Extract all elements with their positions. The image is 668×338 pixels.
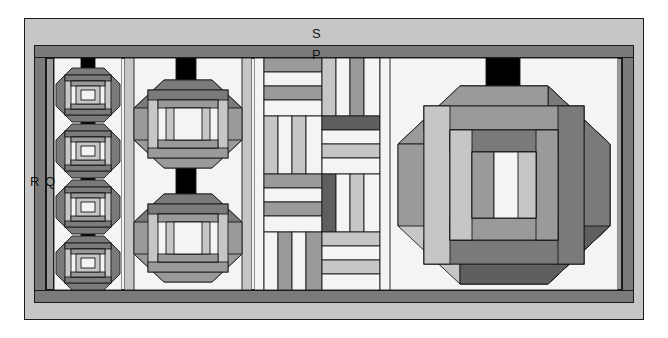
quilt-diagram-canvas: S P R Q <box>0 0 668 338</box>
label-p: P <box>312 48 321 61</box>
sash-strip-bottom <box>34 290 634 303</box>
large-octagon-column <box>390 58 618 290</box>
label-r: R <box>30 175 39 188</box>
sash-strip-top <box>34 45 634 58</box>
label-s: S <box>312 27 321 40</box>
sash-strip-right-outer <box>622 45 634 303</box>
medium-octagon-column <box>124 58 252 290</box>
label-q: Q <box>45 175 55 188</box>
small-octagon-column <box>54 58 122 290</box>
rail-fence-column <box>254 58 390 290</box>
